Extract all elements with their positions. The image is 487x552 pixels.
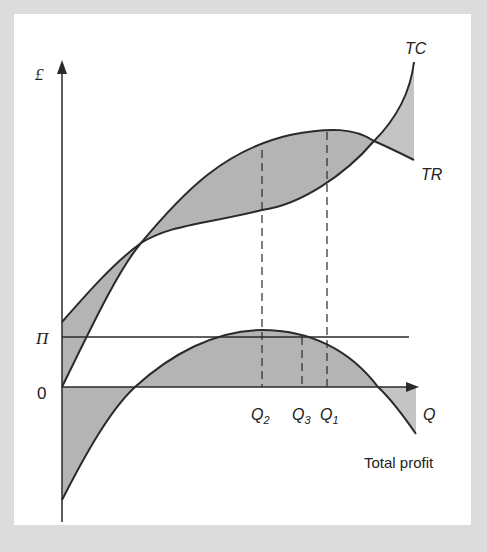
profit-negative-low [62,387,135,500]
q2-label: Q2 [251,406,270,426]
total-profit-label: Total profit [364,454,434,471]
q1-label: Q1 [320,406,339,426]
y-axis-label: £ [35,65,44,84]
tr-label: TR [421,166,443,183]
q3-label: Q3 [292,406,311,426]
x-axis-label: Q [423,406,435,423]
tc-label: TC [405,40,427,57]
y-axis-arrow-icon [57,60,67,74]
profit-region-mid [141,130,374,243]
loss-region-low [62,243,141,387]
pi-label: Π [35,329,50,348]
zero-label: 0 [37,384,46,403]
profit-chart: £ Π 0 TC TR Q2 Q3 Q1 Q Total profit [0,0,487,552]
loss-region-high [374,62,414,160]
